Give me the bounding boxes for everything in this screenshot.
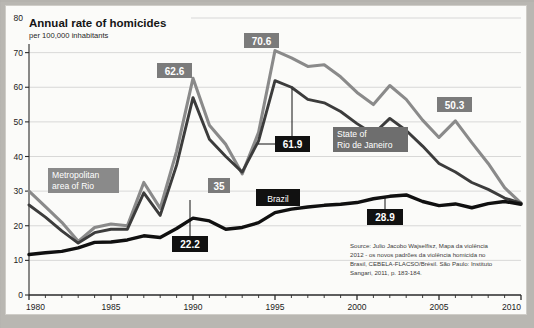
callout-61-9: 61.9 [275,136,310,152]
x-axis-tick-labels: 1980198519901995200020052010 [26,302,521,312]
source-line-3: Brasil, CEBELA-FLACSO/Brésil. São Paulo:… [350,260,493,267]
callout-50-3-label: 50.3 [445,100,465,111]
chart-container: Annual rate of homicides per 100,000 inh… [0,0,534,328]
callout-70-6: 70.6 [244,33,279,48]
y-tick-50: 50 [14,117,24,127]
callout-50-3: 50.3 [437,97,472,112]
x-tick-2005: 2005 [430,302,449,312]
y-tick-60: 60 [14,82,24,92]
x-axis [29,295,521,300]
label-state-line2: Rio de Janeiro [337,140,393,150]
callout-70-6-label: 70.6 [252,36,272,47]
callout-28-9: 28.9 [367,209,403,225]
label-state-of-rio-de-janeiro: State of Rio de Janeiro [333,127,408,152]
callout-62-6-label: 62.6 [165,66,185,77]
y-tick-70: 70 [14,48,24,58]
label-metro-line2: area of Rio [52,181,94,191]
source-line-1: Source: Julio Jacobo Wajselfisz, Mapa da… [350,242,489,249]
y-tick-0: 0 [18,290,23,300]
label-state-line1: State of [337,129,367,139]
x-tick-2000: 2000 [348,302,367,312]
label-brazil: Brazil [256,189,300,206]
x-tick-2010: 2010 [502,302,521,312]
label-brazil-text: Brazil [267,194,289,204]
callout-22-2: 22.2 [172,236,208,252]
x-tick-1980: 1980 [26,302,45,312]
y-tick-30: 30 [14,186,24,196]
callout-35-label: 35 [213,181,225,192]
callout-28-9-label: 28.9 [375,212,395,223]
y-tick-20: 20 [14,221,24,231]
source-line-4: Sangari, 2011, p. 183-184. [350,269,422,276]
label-metro-line1: Metropolitan [52,170,100,180]
label-metropolitan-area-of-rio: Metropolitan area of Rio [48,168,119,193]
homicide-rate-line-chart: Annual rate of homicides per 100,000 inh… [0,0,534,328]
y-axis-tick-labels: 01020304050607080 [14,13,24,300]
figure-page: Annual rate of homicides per 100,000 inh… [0,0,534,328]
callout-22-2-label: 22.2 [180,239,200,250]
callout-61-9-label: 61.9 [283,139,303,150]
x-tick-1995: 1995 [266,302,285,312]
x-tick-1985: 1985 [102,302,121,312]
y-tick-80: 80 [14,13,24,23]
chart-title-block: Annual rate of homicides per 100,000 inh… [23,14,191,44]
callout-35: 35 [208,178,230,193]
chart-subtitle: per 100,000 inhabitants [29,31,109,40]
page-title: Annual rate of homicides [29,17,166,29]
y-tick-40: 40 [14,152,24,162]
callout-62-6: 62.6 [157,63,192,78]
x-tick-1990: 1990 [184,302,203,312]
y-tick-10: 10 [14,255,24,265]
source-line-2: 2012 - os novos padrões da violência hom… [350,251,486,258]
